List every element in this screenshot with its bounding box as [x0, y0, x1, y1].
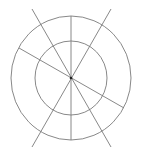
- concentric-circles-diagram: [0, 0, 142, 155]
- center-point: [70, 77, 73, 80]
- diagram-canvas: [0, 0, 142, 155]
